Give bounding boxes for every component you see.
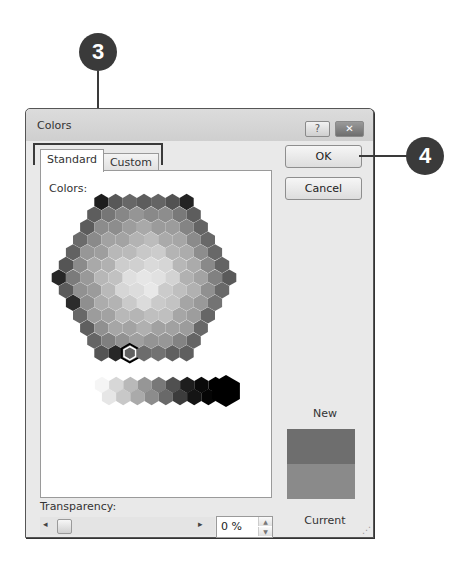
slider-thumb[interactable]	[57, 519, 72, 534]
colors-dialog: Colors ? ✕ Standard Custom Colors: OK Ca…	[25, 108, 374, 538]
close-icon: ✕	[345, 123, 353, 134]
new-color-swatch	[287, 429, 355, 464]
slider-left-arrow-icon[interactable]: ◂	[43, 519, 48, 529]
spin-down-icon[interactable]: ▼	[258, 527, 272, 536]
callout-4: 4	[406, 137, 444, 175]
current-color-label: Current	[295, 514, 355, 527]
transparency-spinner[interactable]: 0 % ▲ ▼	[216, 516, 273, 538]
transparency-value[interactable]: 0 %	[221, 520, 242, 533]
callout-4-leader	[359, 155, 407, 157]
standard-tab-panel: Colors:	[40, 170, 272, 498]
slider-right-arrow-icon[interactable]: ▸	[198, 519, 203, 529]
resize-grip-icon[interactable]: ⋰	[362, 525, 371, 535]
dialog-title: Colors	[37, 119, 71, 132]
help-button[interactable]: ?	[305, 121, 330, 137]
callout-3-bracket-top	[33, 143, 163, 145]
transparency-slider[interactable]: ◂ ▸	[40, 517, 215, 535]
tab-standard-label: Standard	[47, 153, 97, 166]
transparency-label: Transparency:	[40, 500, 116, 513]
tab-custom-label: Custom	[110, 156, 152, 169]
title-bar[interactable]: Colors ? ✕	[26, 109, 373, 141]
callout-3: 3	[79, 33, 117, 71]
help-icon: ?	[315, 123, 320, 134]
cancel-button[interactable]: Cancel	[285, 177, 362, 200]
color-hexagon-grid[interactable]	[41, 171, 271, 497]
current-color-swatch	[287, 464, 355, 499]
new-color-label: New	[295, 407, 355, 420]
ok-button[interactable]: OK	[285, 145, 362, 168]
callout-3-bracket-left	[33, 143, 35, 165]
close-button[interactable]: ✕	[335, 121, 364, 137]
tab-standard[interactable]: Standard	[40, 149, 104, 172]
spin-up-icon[interactable]: ▲	[258, 517, 272, 526]
callout-3-bracket-right	[161, 143, 163, 165]
